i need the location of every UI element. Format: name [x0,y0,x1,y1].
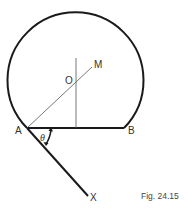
circle-arc [8,12,144,128]
label-a: A [15,125,22,136]
line-ax [27,128,88,196]
label-o: O [65,75,73,86]
label-x: X [90,192,97,203]
angle-arc [46,130,51,144]
line-am [27,67,92,128]
figure-caption: Fig. 24.15 [141,191,179,201]
diagram-canvas: O M A B θ X Fig. 24.15 [0,0,191,214]
label-b: B [128,125,135,136]
label-m: M [94,59,102,70]
label-theta: θ [40,132,45,143]
